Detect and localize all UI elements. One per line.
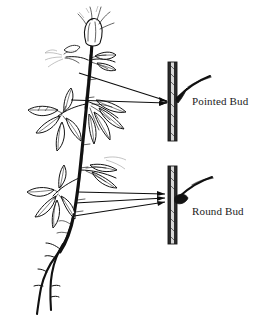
leaf-whorl-lower-left	[27, 165, 79, 228]
terminal-flower-bud	[78, 6, 114, 46]
plant-drawing	[27, 6, 126, 314]
figure-illustration	[0, 0, 260, 319]
main-stem	[60, 42, 92, 252]
leaf-cluster-upper-right	[89, 52, 116, 71]
leader-lines-round-bud	[74, 191, 165, 216]
pointed-bud-label: Pointed Bud	[192, 96, 248, 107]
leaf-cluster-upper-left-faint	[45, 45, 88, 67]
leaf-whorl-left-mid	[28, 88, 86, 151]
leaf-cluster-lower-right	[80, 157, 126, 188]
bud-identification-figure: Pointed Bud Round Bud	[0, 0, 260, 319]
round-bud-label: Round Bud	[192, 206, 244, 217]
lower-bare-stem	[34, 214, 74, 314]
leaf-whorl-right-mid	[86, 100, 126, 144]
